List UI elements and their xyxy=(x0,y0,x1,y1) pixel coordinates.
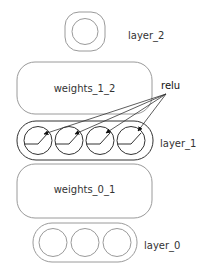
layer-1-label: layer_1 xyxy=(160,138,196,150)
weights-0-1-label: weights_0_1 xyxy=(54,184,116,196)
layer-0: layer_0 xyxy=(33,223,180,262)
network-diagram: layer_2 weights_1_2 relu layer_1 xyxy=(0,0,203,276)
layer-2-container xyxy=(65,12,105,51)
layer-1: layer_1 xyxy=(17,121,196,160)
layer-1-neuron xyxy=(117,127,145,155)
layer-1-neuron xyxy=(55,127,83,155)
relu-label: relu xyxy=(161,80,180,91)
layer-2-label: layer_2 xyxy=(128,30,164,42)
layer-0-neuron xyxy=(103,229,131,257)
relu-curve-icon xyxy=(55,133,79,144)
layer-0-label: layer_0 xyxy=(144,240,180,252)
layer-1-neuron xyxy=(24,127,52,155)
layer-0-neuron xyxy=(71,229,99,257)
layer-0-neuron xyxy=(39,229,67,257)
weights-1-2-label: weights_1_2 xyxy=(54,83,116,95)
weights-0-1: weights_0_1 xyxy=(17,164,152,218)
relu-curve-icon xyxy=(24,133,48,144)
relu-curve-icon xyxy=(117,133,141,144)
weights-1-2: weights_1_2 xyxy=(17,62,152,114)
layer-2: layer_2 xyxy=(65,12,164,51)
relu-curve-icon xyxy=(86,133,110,144)
layer-2-neuron xyxy=(72,19,98,45)
